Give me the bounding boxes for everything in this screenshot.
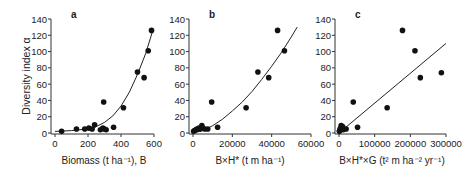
data-point bbox=[350, 99, 356, 105]
panel-b: 0204060801001201400200004000060000bB×H* … bbox=[169, 9, 324, 166]
data-point bbox=[355, 125, 361, 131]
y-tick-label: 0 bbox=[326, 128, 331, 139]
y-tick-label: 80 bbox=[36, 62, 47, 73]
y-tick-label: 40 bbox=[320, 95, 331, 106]
data-point bbox=[209, 99, 215, 105]
y-tick-label: 80 bbox=[320, 62, 331, 73]
y-tick-label: 140 bbox=[315, 14, 331, 25]
data-point bbox=[439, 70, 445, 76]
data-point bbox=[103, 127, 109, 133]
fit-curve bbox=[339, 43, 446, 133]
x-tick-label: 0 bbox=[52, 138, 57, 149]
x-tick-label: 200 bbox=[80, 138, 96, 149]
y-tick-label: 40 bbox=[174, 95, 185, 106]
x-tick-label: 100000 bbox=[359, 138, 391, 149]
x-axis-label: B×H* (t m ha⁻¹) bbox=[215, 155, 284, 166]
data-point bbox=[243, 105, 249, 111]
y-tick-label: 140 bbox=[31, 14, 47, 25]
y-tick-label: 60 bbox=[320, 79, 331, 90]
data-point bbox=[74, 126, 80, 132]
data-point bbox=[149, 28, 155, 34]
data-point bbox=[418, 75, 424, 81]
panel-label: c bbox=[355, 9, 361, 20]
data-point bbox=[343, 126, 349, 132]
x-tick-label: 200000 bbox=[394, 138, 426, 149]
chart-canvas: Diversity index α 0204060801001201400200… bbox=[0, 0, 475, 177]
data-point bbox=[282, 48, 288, 54]
data-point bbox=[59, 129, 65, 135]
y-tick-label: 120 bbox=[169, 30, 185, 41]
y-tick-label: 80 bbox=[174, 62, 185, 73]
x-tick-label: 0 bbox=[190, 138, 195, 149]
fit-curve bbox=[55, 32, 152, 131]
y-tick-label: 100 bbox=[315, 46, 331, 57]
data-point bbox=[205, 126, 211, 132]
x-tick-label: 400 bbox=[113, 138, 129, 149]
panel-c: 0204060801001201400100000200000300000cB×… bbox=[315, 9, 462, 166]
y-tick-label: 0 bbox=[180, 128, 185, 139]
data-point bbox=[266, 75, 272, 81]
x-tick-label: 0 bbox=[336, 138, 341, 149]
data-point bbox=[400, 28, 406, 34]
y-tick-label: 60 bbox=[36, 79, 47, 90]
data-point bbox=[135, 69, 141, 75]
x-tick-label: 600 bbox=[146, 138, 162, 149]
y-tick-label: 20 bbox=[320, 111, 331, 122]
fit-curve bbox=[193, 27, 297, 133]
x-tick-label: 20000 bbox=[219, 138, 245, 149]
y-tick-label: 20 bbox=[36, 111, 47, 122]
panel-a: 0204060801001201400200400600aBiomass (t … bbox=[31, 9, 162, 166]
data-point bbox=[101, 99, 107, 105]
y-tick-label: 100 bbox=[31, 46, 47, 57]
x-tick-label: 40000 bbox=[258, 138, 284, 149]
data-point bbox=[215, 125, 221, 131]
data-point bbox=[255, 69, 261, 75]
data-point bbox=[92, 122, 98, 128]
data-point bbox=[412, 48, 418, 54]
y-tick-label: 60 bbox=[174, 79, 185, 90]
data-point bbox=[384, 105, 390, 111]
x-axis-label: Biomass (t ha⁻¹), B bbox=[61, 155, 146, 166]
data-point bbox=[141, 75, 147, 81]
figure: Diversity index α 0204060801001201400200… bbox=[0, 0, 475, 177]
x-tick-label: 300000 bbox=[430, 138, 462, 149]
y-tick-label: 120 bbox=[315, 30, 331, 41]
data-point bbox=[111, 125, 117, 131]
y-tick-label: 140 bbox=[169, 14, 185, 25]
y-tick-label: 100 bbox=[169, 46, 185, 57]
y-tick-label: 120 bbox=[31, 30, 47, 41]
y-tick-label: 20 bbox=[174, 111, 185, 122]
data-point bbox=[121, 105, 127, 111]
x-tick-label: 60000 bbox=[298, 138, 324, 149]
x-axis-label: B×H*×G (t² m ha⁻² yr⁻¹) bbox=[339, 155, 445, 166]
panel-label: b bbox=[209, 9, 215, 20]
data-point bbox=[275, 28, 281, 34]
y-tick-label: 40 bbox=[36, 95, 47, 106]
y-tick-label: 0 bbox=[42, 128, 47, 139]
data-point bbox=[145, 48, 151, 54]
panel-label: a bbox=[71, 9, 77, 20]
